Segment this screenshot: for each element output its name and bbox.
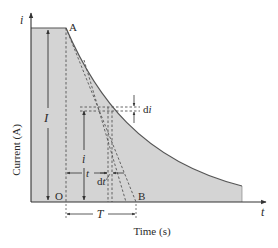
current-decay-diagram: di I i t dt i t Current (A) Time (s) A O… [0,0,278,248]
x-axis-label: Time (s) [133,225,171,238]
point-a-label: A [69,21,77,33]
current-label: i [82,152,85,166]
initial-current-label: I [43,110,49,125]
y-axis-symbol: i [20,13,23,27]
dt-label: dt [97,175,107,187]
y-axis-label: Current (A) [10,124,23,176]
x-axis-symbol: t [261,205,265,219]
di-label-right: di [143,103,152,115]
point-b-label: B [138,190,145,202]
point-o-label: O [55,190,63,202]
time-constant-label: T [97,207,105,221]
